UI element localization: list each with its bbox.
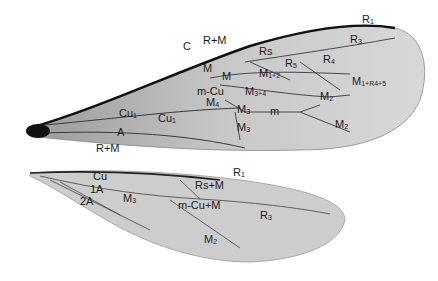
vein-label: R1 [362, 14, 374, 25]
vein-label: Rs+M [195, 180, 224, 191]
hindwing [30, 171, 345, 262]
vein-label: M2 [320, 91, 333, 102]
vein-label: 2A [80, 196, 93, 207]
vein-label: Rs [259, 46, 272, 57]
vein-label: M3 [237, 122, 250, 133]
vein-label: m-Cu+M [178, 200, 220, 211]
vein-label: R+M [96, 143, 120, 154]
vein-label: C [183, 41, 191, 52]
vein-label: Cu1 [119, 108, 137, 119]
vein-label: M3 [123, 193, 136, 204]
vein-label: M1+R4+5 [352, 76, 386, 87]
vein-label: Cu1 [158, 113, 176, 124]
vein-label: 1A [90, 184, 103, 195]
vein-label: M2 [335, 119, 348, 130]
vein-label: M [203, 63, 212, 74]
vein-label: M3+4 [245, 86, 266, 97]
vein-label: R5 [285, 58, 297, 69]
vein-label: M3 [237, 104, 250, 115]
vein-label: A [117, 127, 124, 138]
vein-label: R+M [203, 35, 227, 46]
vein-label: R3 [260, 210, 272, 221]
vein-label: M [222, 71, 231, 82]
vein-label: M2 [204, 234, 217, 245]
vein-label: R3 [350, 34, 362, 45]
vein-label: Cu [93, 171, 107, 182]
vein-label: M4 [206, 97, 219, 108]
vein-label: R4 [323, 54, 335, 65]
wing-venation-figure: CR+MR1R3RsR5R4MMM1+2M1+R4+5m-CuM3+4M2M4C… [0, 0, 438, 281]
vein-label: R1 [233, 167, 245, 178]
vein-label: m [270, 106, 279, 117]
vein-label: M1+2 [259, 68, 280, 79]
